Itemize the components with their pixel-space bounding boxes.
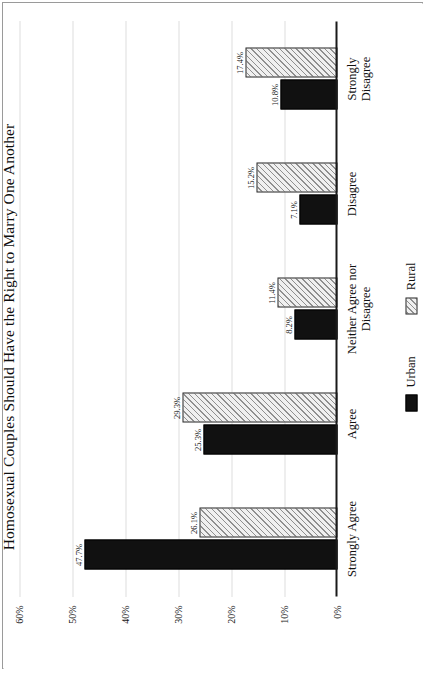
value-axis-baseline xyxy=(335,21,337,596)
bar-value-label: 8.2% xyxy=(283,316,293,334)
bar-value-label: 25.3% xyxy=(192,429,202,451)
legend-item-rural: Rural xyxy=(403,262,418,314)
bar-value-label: 10.8% xyxy=(269,84,279,106)
value-axis-tick-label: 30% xyxy=(173,605,184,623)
bar-value-label: 7.1% xyxy=(288,201,298,219)
bar-urban: 25.3% xyxy=(203,425,337,455)
bar-rural: 17.4% xyxy=(245,48,337,78)
value-axis-tick-label: 20% xyxy=(226,605,237,623)
bar-value-label: 15.2% xyxy=(245,167,255,189)
category-axis-label: Strongly Agree xyxy=(344,500,358,576)
legend-label: Urban xyxy=(403,356,418,387)
rotated-figure-wrapper: Homosexual Couples Should Have the Right… xyxy=(3,3,424,670)
bar-urban: 8.2% xyxy=(294,310,337,340)
value-axis-tick-label: 60% xyxy=(14,605,25,623)
bar-urban: 47.7% xyxy=(84,540,337,570)
bar-value-label: 26.1% xyxy=(188,512,198,534)
category-axis-label: Agree xyxy=(344,408,358,439)
bar-urban: 7.1% xyxy=(299,195,337,225)
bar-value-label: 29.3% xyxy=(171,397,181,419)
category-axis-label: Strongly Disagree xyxy=(344,50,372,108)
bar-chart-figure: Homosexual Couples Should Have the Right… xyxy=(3,3,424,670)
chart-title: Homosexual Couples Should Have the Right… xyxy=(0,3,17,670)
legend-label: Rural xyxy=(403,262,418,290)
bar-rural: 11.4% xyxy=(277,278,337,308)
value-axis-tick-label: 10% xyxy=(279,605,290,623)
bar-urban: 10.8% xyxy=(280,80,337,110)
plot-area: 0%10%20%30%40%50%60% 47.7%26.1%25.3%29.3… xyxy=(19,21,337,596)
bar-value-label: 11.4% xyxy=(266,282,276,304)
value-axis-tick-label: 50% xyxy=(67,605,78,623)
bar-rural: 15.2% xyxy=(256,163,337,193)
chart-legend: UrbanRural xyxy=(403,3,418,670)
legend-item-urban: Urban xyxy=(403,356,418,411)
bar-group: 25.3%29.3% xyxy=(19,366,337,481)
legend-swatch-rural xyxy=(405,297,417,314)
category-axis-label: Neither Agree nor Disagree xyxy=(344,263,372,353)
category-axis-label: Disagree xyxy=(344,171,358,215)
value-axis-tick-label: 0% xyxy=(332,605,343,618)
bar-rural: 29.3% xyxy=(182,393,337,423)
legend-swatch-urban xyxy=(405,394,417,411)
bar-group: 10.8%17.4% xyxy=(19,21,337,136)
figure-page-frame: Homosexual Couples Should Have the Right… xyxy=(2,2,423,669)
bar-group: 7.1%15.2% xyxy=(19,136,337,251)
bar-rural: 26.1% xyxy=(199,508,337,538)
value-axis-tick-label: 40% xyxy=(120,605,131,623)
bar-group: 47.7%26.1% xyxy=(19,481,337,596)
bar-value-label: 47.7% xyxy=(73,544,83,566)
bar-group: 8.2%11.4% xyxy=(19,251,337,366)
bar-value-label: 17.4% xyxy=(234,52,244,74)
